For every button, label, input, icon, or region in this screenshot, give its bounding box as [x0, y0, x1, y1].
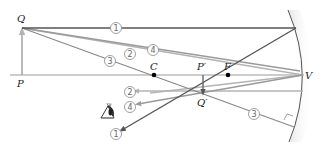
- svg-text:1: 1: [113, 24, 118, 33]
- label-v: V: [305, 70, 314, 81]
- label-q: Q: [17, 13, 25, 24]
- ray-3-badge-top: 3: [105, 56, 116, 67]
- svg-text:4: 4: [150, 46, 155, 55]
- svg-text:2: 2: [127, 50, 132, 59]
- ray-4-badge-bottom: 4: [125, 102, 136, 113]
- label-p-prime: P′: [196, 61, 207, 72]
- svg-text:2: 2: [127, 88, 132, 97]
- ray-2-badge-top: 2: [125, 49, 136, 60]
- svg-text:4: 4: [127, 103, 132, 112]
- center-of-curvature-point: [152, 73, 157, 78]
- label-c: C: [150, 61, 158, 72]
- label-q-prime: Q′: [197, 97, 208, 108]
- ray-1-badge-bottom: 1: [111, 129, 122, 140]
- ray-4: [22, 28, 303, 104]
- ray-2-badge-bottom: 2: [125, 87, 136, 98]
- label-p: P: [16, 78, 24, 89]
- mirror-ray-diagram: Q P C F V P′ Q′ 1 1 2 2 3 3 4 4: [0, 0, 325, 146]
- eye-observer-icon: [101, 103, 114, 118]
- svg-text:1: 1: [113, 130, 118, 139]
- svg-text:3: 3: [251, 110, 256, 119]
- ray-2: [22, 28, 303, 93]
- svg-text:3: 3: [107, 57, 112, 66]
- ray-4-badge-top: 4: [148, 45, 159, 56]
- label-f: F: [223, 61, 232, 72]
- ray-1-badge-top: 1: [111, 23, 122, 34]
- focal-point: [226, 73, 231, 78]
- ray-3-badge-bottom: 3: [249, 109, 260, 120]
